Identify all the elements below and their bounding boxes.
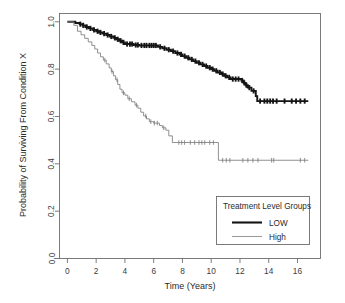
legend-label-low: LOW [269,219,288,228]
y-tick-label: 0.0 [47,252,57,264]
x-tick-label: 0 [65,266,70,276]
x-tick-label: 6 [151,266,156,276]
y-axis-title: Probability of Surviving From Condition … [18,53,28,217]
y-tick-label: 0.2 [47,205,57,217]
y-tick-label: 0.4 [47,158,57,170]
x-tick-label: 8 [180,266,185,276]
survival-chart-page: 0246810121416 0.00.20.40.60.81.0 Time (Y… [0,0,345,303]
x-tick-label: 16 [293,266,303,276]
x-axis-title: Time (Years) [165,281,216,291]
y-tick-label: 0.8 [47,63,57,75]
x-tick-label: 12 [235,266,245,276]
legend-label-high: High [269,233,286,242]
y-tick-label: 1.0 [47,16,57,28]
x-tick-label: 10 [207,266,217,276]
y-tick-label: 0.6 [47,110,57,122]
x-tick-label: 14 [264,266,274,276]
kaplan-meier-plot: 0246810121416 0.00.20.40.60.81.0 Time (Y… [0,0,345,303]
x-tick-label: 4 [123,266,128,276]
x-tick-label: 2 [94,266,99,276]
legend-title: Treatment Level Groups [223,202,311,211]
chart-legend: Treatment Level Groups LOW High [217,197,311,245]
